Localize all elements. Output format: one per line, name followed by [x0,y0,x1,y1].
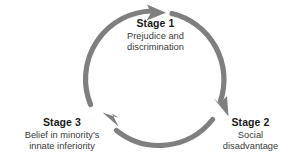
stage-2-description-line-1: Social [206,130,295,141]
stage-1-description: Prejudice and discrimination [98,31,213,53]
stage-2-description-line-2: disadvantage [206,141,295,152]
stage-1-description-line-1: Prejudice and [98,31,213,42]
stage-1-label-group: Stage 1 Prejudice and discrimination [98,17,213,53]
stage-3-description-line-1: Belief in minority's [2,130,122,141]
stage-3-description: Belief in minority's innate inferiority [2,130,122,152]
stage-1-description-line-2: discrimination [98,42,213,53]
stage-3-description-line-2: innate inferiority [2,141,122,152]
stage-2-title: Stage 2 [206,116,295,128]
stage-3-title: Stage 3 [2,116,122,128]
stage-2-description: Social disadvantage [206,130,295,152]
stage-3-label-group: Stage 3 Belief in minority's innate infe… [2,116,122,152]
stage-1-title: Stage 1 [98,17,213,29]
arc-stage2-to-stage3 [117,120,213,146]
stage-2-label-group: Stage 2 Social disadvantage [206,116,295,152]
cycle-diagram: Stage 1 Prejudice and discrimination Sta… [0,0,295,164]
